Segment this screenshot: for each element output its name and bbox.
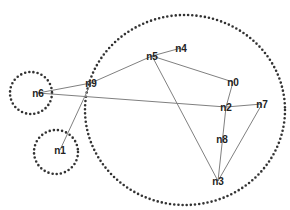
node-n6: n6 — [32, 88, 44, 99]
edge-n6-n9 — [38, 83, 91, 93]
edge-n9-n5 — [91, 56, 152, 83]
network-diagram: n0n1n2n3n4n5n6n7n8n9 — [0, 0, 290, 210]
node-n8: n8 — [216, 134, 228, 145]
edge-group — [38, 48, 262, 181]
node-n1: n1 — [54, 145, 66, 156]
cluster-n6 — [10, 72, 52, 114]
node-n5: n5 — [146, 51, 158, 62]
node-n0: n0 — [227, 77, 239, 88]
node-group: n0n1n2n3n4n5n6n7n8n9 — [32, 43, 268, 187]
node-n4: n4 — [175, 43, 187, 54]
node-n3: n3 — [212, 176, 224, 187]
node-n7: n7 — [256, 99, 268, 110]
node-n9: n9 — [85, 78, 97, 89]
graph-canvas: n0n1n2n3n4n5n6n7n8n9 — [0, 0, 290, 210]
cluster-group — [10, 15, 285, 205]
edge-n6-n2 — [38, 93, 226, 107]
node-n2: n2 — [220, 102, 232, 113]
edge-n5-n3 — [152, 56, 218, 181]
